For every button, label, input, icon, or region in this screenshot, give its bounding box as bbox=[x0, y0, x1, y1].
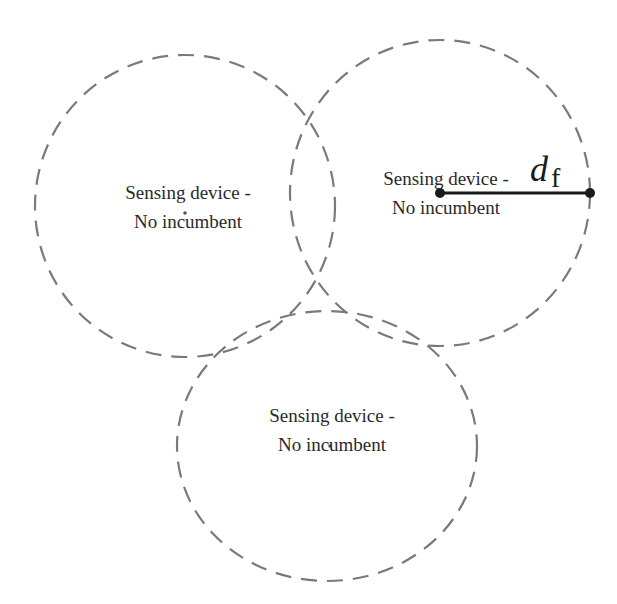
radius-symbol: df bbox=[530, 148, 557, 190]
node-label-left-line1: Sensing device - bbox=[108, 178, 268, 207]
diagram-canvas: Sensing device - No incumbent Sensing de… bbox=[0, 0, 617, 604]
node-label-bottom-line2: No incumbent bbox=[252, 430, 412, 459]
node-label-left: Sensing device - No incumbent bbox=[108, 178, 268, 236]
diagram-svg bbox=[0, 0, 617, 604]
radius-symbol-d: d bbox=[530, 149, 548, 189]
node-label-bottom-line1: Sensing device - bbox=[252, 401, 412, 430]
radius-endpoint-edge bbox=[585, 188, 595, 198]
node-label-right: Sensing device - No incumbent bbox=[366, 164, 526, 222]
node-label-bottom: Sensing device - No incumbent bbox=[252, 401, 412, 459]
node-label-left-line2: No incumbent bbox=[108, 207, 268, 236]
node-label-right-line2: No incumbent bbox=[366, 193, 526, 222]
radius-symbol-subscript: f bbox=[551, 162, 560, 193]
node-label-right-line1: Sensing device - bbox=[366, 164, 526, 193]
